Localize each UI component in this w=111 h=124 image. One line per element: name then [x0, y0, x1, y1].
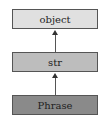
node-object-label: object	[39, 14, 70, 25]
arrowhead-icon	[52, 73, 58, 78]
node-phrase-label: Phrase	[38, 100, 73, 111]
arrowhead-icon	[52, 30, 58, 35]
node-str: str	[12, 52, 98, 72]
edge-str-to-object	[55, 34, 56, 52]
node-str-label: str	[48, 57, 62, 68]
node-object: object	[12, 9, 98, 29]
edge-phrase-to-str	[55, 77, 56, 95]
node-phrase: Phrase	[12, 95, 98, 115]
